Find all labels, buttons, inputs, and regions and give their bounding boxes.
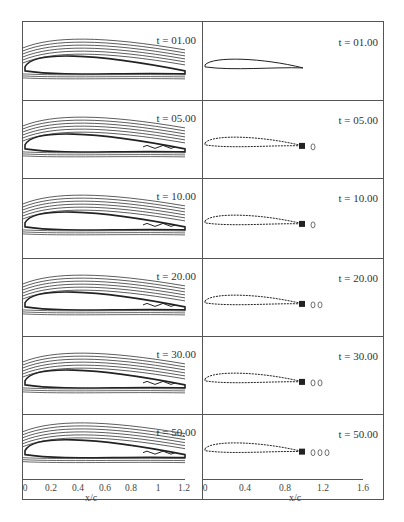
streamline-panel: t = 30.00	[23, 336, 202, 414]
tick-label: 0.8	[125, 483, 137, 493]
time-label: t = 10.00	[338, 192, 378, 204]
time-label: t = 20.00	[156, 270, 196, 282]
time-label: t = 50.00	[156, 426, 196, 438]
x-axis-label: x/c	[289, 492, 301, 503]
vorticity-plot	[203, 336, 384, 414]
time-label: t = 05.00	[338, 114, 378, 126]
time-label: t = 30.00	[156, 348, 196, 360]
tick-label: 0	[203, 483, 208, 493]
time-label: t = 10.00	[156, 190, 196, 202]
tick-label: 0	[23, 483, 28, 493]
tick-label: 1	[156, 483, 161, 493]
time-label: t = 30.00	[338, 350, 378, 362]
left-x-axis: 0 0.2 0.4 0.6 0.8 1 1.2 x/c	[23, 477, 202, 501]
vorticity-plot	[203, 178, 384, 258]
streamline-panel: t = 50.00	[23, 414, 202, 477]
tick-label: 0.4	[72, 483, 84, 493]
vorticity-plot	[203, 22, 384, 100]
time-label: t = 05.00	[156, 112, 196, 124]
streamline-plot	[23, 414, 202, 477]
tick-label: 1.2	[317, 483, 329, 493]
vorticity-panel: t = 05.00	[203, 100, 384, 178]
streamline-panel: t = 05.00	[23, 100, 202, 178]
x-axis-label: x/c	[85, 492, 97, 503]
right-x-axis: 0 0.4 0.8 1.2 1.6 x/c	[203, 477, 384, 501]
vorticity-plot	[203, 100, 384, 178]
vorticity-panel: t = 10.00	[203, 178, 384, 258]
time-label: t = 50.00	[338, 428, 378, 440]
tick-label: 0.6	[99, 483, 111, 493]
vorticity-panel: t = 30.00	[203, 336, 384, 414]
tick-label: 1.2	[178, 483, 190, 493]
streamline-panel: t = 20.00	[23, 258, 202, 336]
tick-label: 1.6	[357, 483, 369, 493]
tick-label: 0.2	[45, 483, 57, 493]
vorticity-panel: t = 01.00	[203, 22, 384, 100]
vorticity-plot	[203, 258, 384, 336]
tick-label: 0.4	[239, 483, 251, 493]
vorticity-panel: t = 50.00	[203, 414, 384, 477]
vorticity-panel: t = 20.00	[203, 258, 384, 336]
time-label: t = 20.00	[338, 272, 378, 284]
streamline-panel: t = 10.00	[23, 178, 202, 258]
figure-frame: t = 01.00t = 05.00t = 10.00t = 20.00t = …	[22, 21, 384, 500]
time-label: t = 01.00	[156, 34, 196, 46]
streamline-panel: t = 01.00	[23, 22, 202, 100]
vorticity-plot	[203, 414, 384, 477]
time-label: t = 01.00	[338, 36, 378, 48]
